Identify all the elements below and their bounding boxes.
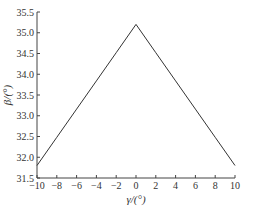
axes (37, 12, 235, 178)
y-tick-label: 33.5 (17, 90, 35, 101)
x-tick-label: −8 (51, 180, 62, 191)
x-tick-label: 10 (230, 180, 240, 191)
line-chart: −10−8−6−4−20246810 31.532.032.533.033.53… (0, 0, 253, 207)
y-tick-label: 32.0 (17, 152, 35, 163)
x-tick-label: −6 (71, 180, 82, 191)
x-axis-ticks: −10−8−6−4−20246810 (29, 175, 240, 191)
x-tick-label: 0 (134, 180, 139, 191)
y-tick-label: 32.5 (17, 131, 35, 142)
data-series (37, 24, 235, 165)
x-tick-label: −2 (111, 180, 122, 191)
series-line (37, 24, 235, 165)
x-tick-label: 4 (173, 180, 178, 191)
x-axis-label: γ/(°) (126, 193, 145, 206)
y-tick-label: 35.5 (17, 7, 35, 18)
y-tick-label: 31.5 (17, 173, 35, 184)
y-tick-label: 33.0 (17, 110, 35, 121)
x-tick-label: 6 (193, 180, 198, 191)
x-tick-label: 2 (153, 180, 158, 191)
y-tick-label: 34.5 (17, 48, 35, 59)
x-tick-label: 8 (213, 180, 218, 191)
x-tick-label: −4 (91, 180, 102, 191)
y-tick-label: 34.0 (17, 69, 35, 80)
y-axis-ticks: 31.532.032.533.033.534.034.535.035.5 (17, 7, 41, 184)
y-axis-label: β/(°) (1, 85, 14, 107)
y-tick-label: 35.0 (17, 27, 35, 38)
